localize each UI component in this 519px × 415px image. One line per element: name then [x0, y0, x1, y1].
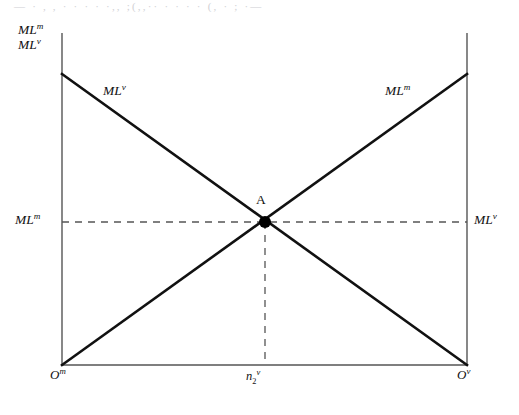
origin-label-left-sup: m — [59, 366, 65, 376]
vertical-axis-label-line2-sup: v — [37, 36, 41, 46]
left-equilibrium-axis-label-sup: m — [34, 211, 41, 221]
chart-canvas — [0, 0, 519, 415]
origin-label-left-base: O — [50, 367, 59, 382]
origin-label-left: Om — [50, 368, 66, 383]
origin-label-right-base: O — [457, 367, 466, 382]
curve-label-ml-m-sup: m — [404, 82, 411, 92]
vertical-axis-label: MLm MLv — [18, 22, 43, 52]
x-axis-equilibrium-label-sub: 2 — [252, 377, 256, 386]
curve-label-ml-m: MLm — [385, 83, 410, 98]
labor-allocation-figure: — · , , · · · · ·,, ;(,,·· · · · · (, · … — [0, 0, 519, 415]
curve-label-ml-v: MLv — [103, 83, 126, 98]
vertical-axis-label-line1-base: ML — [18, 22, 37, 37]
origin-label-right-sup: v — [466, 366, 470, 376]
left-equilibrium-axis-label-base: ML — [15, 212, 34, 227]
curve-label-ml-v-sup: v — [122, 82, 126, 92]
x-axis-equilibrium-label-sup: v — [256, 367, 260, 377]
curve-label-ml-m-base: ML — [385, 83, 404, 98]
x-axis-equilibrium-label: n2v — [246, 369, 260, 383]
right-equilibrium-axis-label: MLv — [474, 212, 497, 227]
vertical-axis-label-line2-base: ML — [18, 37, 37, 52]
equilibrium-point-label: A — [256, 192, 266, 207]
origin-label-right: Ov — [457, 368, 470, 383]
vertical-axis-label-line1-sup: m — [37, 21, 44, 31]
equilibrium-point-marker — [259, 216, 271, 228]
right-equilibrium-axis-label-base: ML — [474, 212, 493, 227]
curve-label-ml-v-base: ML — [103, 83, 122, 98]
left-equilibrium-axis-label: MLm — [15, 212, 40, 227]
right-equilibrium-axis-label-sup: v — [493, 211, 497, 221]
